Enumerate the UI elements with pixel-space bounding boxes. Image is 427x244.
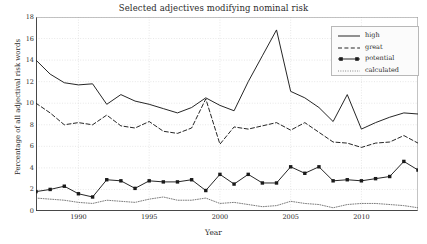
y-tick-label: 4 — [12, 164, 34, 172]
series-marker-potential — [48, 188, 51, 191]
series-marker-potential — [204, 189, 207, 192]
series-marker-potential — [77, 192, 80, 195]
x-tick-label: 2000 — [200, 213, 240, 221]
series-marker-potential — [218, 173, 221, 176]
y-tick-label: 8 — [12, 121, 34, 129]
series-marker-potential — [317, 165, 320, 168]
series-marker-potential — [374, 177, 377, 180]
x-axis-ticks: 19901995200020052010 — [36, 213, 418, 227]
y-tick-label: 6 — [12, 142, 34, 150]
y-tick-label: 2 — [12, 185, 34, 193]
legend-item-great[interactable]: great — [332, 42, 418, 54]
chart-figure: Selected adjectives modifying nominal ri… — [0, 0, 427, 244]
x-tick-label: 2005 — [271, 213, 311, 221]
series-marker-potential — [289, 165, 292, 168]
y-tick-label: 12 — [12, 78, 34, 86]
x-tick-label: 2010 — [341, 213, 381, 221]
legend-swatch-potential — [337, 53, 361, 65]
y-tick-label: 18 — [12, 13, 34, 21]
legend-label: great — [365, 43, 383, 51]
legend-label: high — [365, 31, 380, 39]
x-axis-label: Year — [0, 228, 427, 237]
y-axis-ticks: 024681012141618 — [10, 17, 34, 211]
series-marker-potential — [36, 190, 38, 193]
legend-swatch-great — [337, 42, 361, 54]
series-marker-potential — [133, 187, 136, 190]
legend-item-potential[interactable]: potential — [332, 53, 418, 65]
series-marker-potential — [105, 178, 108, 181]
series-marker-potential — [63, 185, 66, 188]
legend-label: potential — [365, 54, 394, 62]
series-marker-potential — [346, 178, 349, 181]
legend-label: calculated — [365, 66, 399, 74]
chart-title: Selected adjectives modifying nominal ri… — [0, 3, 427, 13]
series-marker-potential — [388, 175, 391, 178]
series-marker-potential — [119, 179, 122, 182]
series-marker-potential — [232, 182, 235, 185]
x-tick-label: 1995 — [129, 213, 169, 221]
series-marker-potential — [247, 173, 250, 176]
legend-swatch-high — [337, 30, 361, 42]
chart-legend: highgreatpotentialcalculated — [331, 26, 419, 76]
series-marker-potential — [162, 180, 165, 183]
series-marker-potential — [402, 160, 405, 163]
series-marker-potential — [303, 172, 306, 175]
series-marker-potential — [416, 168, 418, 171]
series-marker-potential — [261, 181, 264, 184]
x-tick-label: 1990 — [58, 213, 98, 221]
y-tick-label: 10 — [12, 99, 34, 107]
series-marker-potential — [275, 181, 278, 184]
series-marker-potential — [360, 179, 363, 182]
series-marker-potential — [176, 180, 179, 183]
y-tick-label: 16 — [12, 35, 34, 43]
y-tick-label: 14 — [12, 56, 34, 64]
legend-swatch-calculated — [337, 65, 361, 77]
legend-item-calculated[interactable]: calculated — [332, 65, 418, 77]
series-marker-potential — [331, 179, 334, 182]
series-marker-potential — [190, 178, 193, 181]
legend-item-high[interactable]: high — [332, 30, 418, 42]
series-marker-potential — [91, 195, 94, 198]
series-marker-potential — [147, 179, 150, 182]
y-tick-label: 0 — [12, 207, 34, 215]
